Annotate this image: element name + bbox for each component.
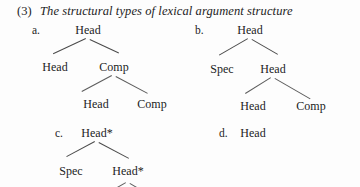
tree-b-node-spec: Spec bbox=[210, 62, 233, 76]
tree-a-node-head-left: Head bbox=[42, 60, 67, 74]
example-number: (3) bbox=[17, 4, 32, 18]
tree-a-node-comp-leaf: Comp bbox=[137, 97, 166, 111]
tree-d-node-head-root: Head bbox=[240, 126, 265, 140]
tree-a-branch-comp-left bbox=[82, 75, 112, 92]
example-title: The structural types of lexical argument… bbox=[40, 4, 293, 18]
tree-label-c: c. bbox=[55, 127, 63, 140]
tree-b-branch-mid-left bbox=[245, 77, 271, 94]
tree-c-branch-root-left bbox=[66, 141, 95, 157]
tree-a-branch-comp-right bbox=[116, 76, 148, 94]
tree-label-b: b. bbox=[195, 24, 204, 37]
tree-b-node-comp-leaf: Comp bbox=[296, 99, 325, 113]
tree-c-node-head-right: Head* bbox=[112, 164, 143, 178]
tree-c-node-spec: Spec bbox=[59, 164, 82, 178]
tree-b-branch-root-right bbox=[252, 39, 278, 55]
tree-a-node-head-leaf: Head bbox=[83, 97, 108, 111]
tree-a-node-comp-right: Comp bbox=[99, 60, 128, 74]
tree-c-branch-root-right bbox=[99, 142, 129, 159]
tree-b-branch-mid-right bbox=[275, 78, 311, 99]
tree-c-branch-clipped-left bbox=[117, 182, 126, 187]
tree-b-branch-root-left bbox=[219, 38, 248, 55]
tree-a-branch-root-right bbox=[90, 39, 119, 53]
figure-page: (3) The structural types of lexical argu… bbox=[0, 0, 360, 187]
tree-a-branch-root-left bbox=[53, 38, 86, 54]
tree-b-node-head-leaf: Head bbox=[240, 99, 265, 113]
tree-b-node-head-root: Head bbox=[237, 23, 262, 37]
tree-b-node-head-mid: Head bbox=[260, 62, 285, 76]
tree-label-a: a. bbox=[32, 24, 40, 37]
tree-a-node-head-root: Head bbox=[75, 23, 100, 37]
tree-c-branch-clipped-right bbox=[130, 183, 139, 187]
tree-label-d: d. bbox=[219, 127, 228, 140]
tree-c-node-head-root: Head* bbox=[81, 126, 112, 140]
